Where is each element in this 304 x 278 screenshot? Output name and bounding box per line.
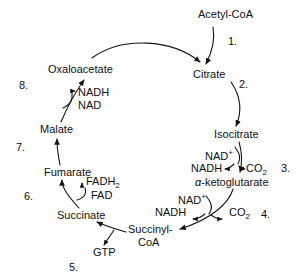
nad-step3-text: NAD <box>205 150 228 162</box>
label-nad-step8: NAD <box>78 100 101 111</box>
fadh2-subscript: 2 <box>115 181 119 190</box>
step-number-1: 1. <box>228 36 237 47</box>
arrow-to-co2-step3 <box>239 166 245 169</box>
step-number-3: 3. <box>281 163 290 174</box>
nad-step4-text: NAD <box>178 194 201 206</box>
label-succinyl-coa-line1: Succinyl- <box>128 224 173 235</box>
arrow-oxaloacetate-to-citrate <box>92 43 200 62</box>
curve-nad-step4 <box>206 196 211 214</box>
step-number-6: 6. <box>24 191 33 202</box>
co2-step3-text: CO <box>246 162 263 174</box>
nad-step4-superscript: + <box>201 192 206 201</box>
step-number-7: 7. <box>16 142 25 153</box>
label-gtp: GTP <box>93 247 116 258</box>
label-malate: Malate <box>40 124 73 135</box>
label-succinyl-coa-line2: CoA <box>138 237 159 248</box>
arrow-to-co2-step4 <box>211 215 222 219</box>
step-number-8: 8. <box>19 80 28 91</box>
arrow-succinate-to-fumarate <box>62 180 79 208</box>
label-fad: FAD <box>91 190 112 201</box>
arrow-to-nadh-step8 <box>72 91 75 92</box>
label-citrate: Citrate <box>193 69 225 80</box>
co2-step4-subscript: 2 <box>246 212 250 221</box>
label-co2-step4: CO2 <box>229 207 250 222</box>
co2-step4-text: CO <box>229 206 246 218</box>
nad-step3-superscript: + <box>228 148 233 157</box>
arrow-to-gtp <box>104 230 114 245</box>
label-alpha-ketoglutarate: α-ketoglutarate <box>195 177 269 188</box>
arrow-succinylcoa-to-succinate <box>97 222 126 232</box>
label-nadh-step3: NADH <box>191 163 222 174</box>
step-number-2: 2. <box>239 79 248 90</box>
label-acetyl-coa: Acetyl-CoA <box>198 9 253 20</box>
step-number-5: 5. <box>69 262 78 273</box>
label-nadh-step8: NADH <box>78 87 109 98</box>
label-nadh-step4: NADH <box>155 207 186 218</box>
curve-fad-step6 <box>77 188 86 200</box>
step-number-4: 4. <box>261 209 270 220</box>
co2-step3-subscript: 2 <box>263 168 267 177</box>
arrow-to-nadh-step4 <box>193 214 205 219</box>
krebs-cycle-diagram: Acetyl-CoA Citrate Isocitrate α-ketoglut… <box>0 0 304 278</box>
label-co2-step3: CO2 <box>246 163 267 178</box>
label-nad-plus-step4: NAD+ <box>178 191 206 206</box>
label-succinate: Succinate <box>57 210 105 221</box>
curve-nad-step8 <box>63 93 72 108</box>
label-fumarate: Fumarate <box>44 167 91 178</box>
label-isocitrate: Isocitrate <box>214 129 259 140</box>
arrow-fumarate-to-malate <box>57 139 60 165</box>
arrow-to-nadh-step3 <box>225 164 234 169</box>
label-oxaloacetate: Oxaloacetate <box>48 64 113 75</box>
label-nad-plus-step3: NAD+ <box>205 147 233 162</box>
arrow-acetylcoa-to-citrate <box>206 27 214 64</box>
curve-nad-step3 <box>235 147 240 164</box>
fadh2-text: FADH <box>86 175 115 187</box>
